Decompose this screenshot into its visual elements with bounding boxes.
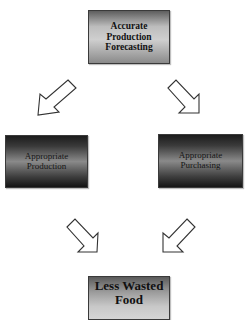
label-line: Food bbox=[95, 293, 164, 307]
arrow-shape bbox=[38, 80, 76, 115]
arrow-shape bbox=[163, 219, 195, 252]
node-label: Appropriate Purchasing bbox=[179, 151, 222, 171]
arrow-shape bbox=[168, 80, 199, 113]
label-line: Less Wasted bbox=[95, 279, 164, 293]
label-line: Production bbox=[105, 32, 152, 42]
node-appropriate-purchasing: Appropriate Purchasing bbox=[158, 134, 243, 188]
arrow-down-left-icon bbox=[32, 78, 78, 118]
arrow-shape bbox=[67, 219, 98, 252]
node-label: Less Wasted Food bbox=[95, 279, 164, 306]
label-line: Production bbox=[25, 162, 68, 172]
node-label: Accurate Production Forecasting bbox=[105, 21, 152, 52]
label-line: Accurate bbox=[105, 21, 152, 31]
node-appropriate-production: Appropriate Production bbox=[5, 135, 88, 188]
arrow-down-left-icon bbox=[158, 216, 198, 256]
arrow-down-right-icon bbox=[165, 78, 205, 116]
arrow-down-right-icon bbox=[64, 216, 104, 256]
label-line: Purchasing bbox=[179, 161, 222, 171]
label-line: Forecasting bbox=[105, 42, 152, 52]
node-label: Appropriate Production bbox=[25, 152, 68, 172]
node-accurate-production-forecasting: Accurate Production Forecasting bbox=[88, 10, 170, 64]
node-less-wasted-food: Less Wasted Food bbox=[88, 276, 170, 320]
